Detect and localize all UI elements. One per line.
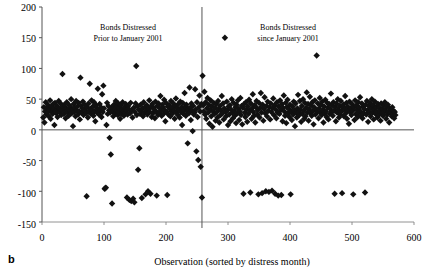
y-tick-label-50: 50 [8,95,36,106]
data-point-marker [181,90,187,96]
x-tick-label-300: 300 [213,232,243,243]
data-point-marker [185,140,191,146]
data-point-marker [198,164,204,170]
data-point-marker [87,81,93,87]
data-point-marker [342,93,348,99]
annotation-left-line1: Bonds Distressed [68,22,188,33]
data-point-marker [83,193,89,199]
data-point-group [40,35,399,207]
x-axis-title: Observation (sorted by distress month) [107,256,357,267]
data-point-marker [258,90,264,96]
y-tick-label-100: 100 [8,64,36,75]
x-tick-label-400: 400 [275,232,305,243]
panel-letter: b [8,253,15,265]
annotation-left-group: Bonds Distressed Prior to January 2001 [68,22,188,44]
data-point-marker [219,93,225,99]
data-point-marker [365,119,371,125]
data-point-marker [136,145,142,151]
figure-panel-b: 200 150 100 50 0 -50 -100 -150 0 100 200… [0,0,434,277]
data-point-marker [350,191,356,197]
data-point-marker [320,119,326,125]
data-point-marker [99,91,105,97]
data-point-marker [164,192,170,198]
x-tick-label-500: 500 [337,232,367,243]
y-tick-label-neg100: -100 [8,188,36,199]
y-tick-label-neg150: -150 [8,219,36,230]
y-tick-label-150: 150 [8,33,36,44]
y-tick-label-neg50: -50 [8,157,36,168]
data-point-marker [199,194,205,200]
data-point-marker [192,86,198,92]
data-point-marker [281,92,287,98]
x-tick-label-600: 600 [399,232,429,243]
data-point-marker [77,74,83,80]
data-point-marker [108,151,114,157]
data-point-marker [59,71,65,77]
data-point-marker [195,157,201,163]
data-point-marker [135,167,141,173]
data-point-marker [106,135,112,141]
data-point-marker [247,189,253,195]
data-point-marker [100,82,106,88]
data-point-marker [310,121,316,127]
data-point-marker [287,191,293,197]
x-tick-label-100: 100 [89,232,119,243]
data-point-marker [51,122,57,128]
data-point-marker [95,86,101,92]
data-point-marker [199,73,205,79]
data-point-marker [193,148,199,154]
data-point-marker [189,128,195,134]
data-point-marker [154,192,160,198]
data-point-marker [92,118,98,124]
x-tick-label-200: 200 [151,232,181,243]
data-point-marker [339,190,345,196]
annotation-left-line2: Prior to January 2001 [68,33,188,44]
data-point-marker [292,123,298,129]
data-point-marker [109,200,115,206]
annotation-right-line1: Bonds Distressed [228,22,348,33]
data-point-marker [186,84,192,90]
data-point-marker [331,191,337,197]
data-point-marker [162,118,168,124]
data-point-marker [179,122,185,128]
data-point-marker [103,122,109,128]
data-point-marker [328,90,334,96]
annotation-right-line2: since January 2001 [228,33,348,44]
data-point-marker [133,63,139,69]
y-tick-label-200: 200 [8,2,36,13]
y-tick-label-0: 0 [8,126,36,137]
x-tick-label-0: 0 [27,232,57,243]
data-point-marker [70,123,76,129]
data-point-marker [313,52,319,58]
data-point-marker [240,191,246,197]
data-point-marker [250,91,256,97]
annotation-right-group: Bonds Distressed since January 2001 [228,22,348,44]
data-point-marker [188,117,194,123]
data-point-marker [362,189,368,195]
data-point-marker [295,92,301,98]
